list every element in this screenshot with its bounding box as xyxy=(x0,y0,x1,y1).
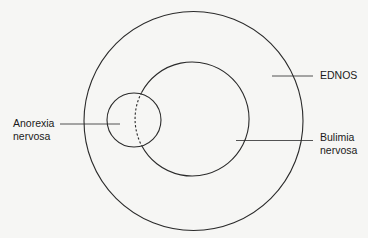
bulimia-label-line2: nervosa xyxy=(320,144,357,157)
bulimia-nervosa-circle xyxy=(142,62,249,176)
anorexia-nervosa-label: Anorexia nervosa xyxy=(13,117,54,143)
ednos-circle xyxy=(84,12,303,231)
bulimia-anorexia-overlap-dashed-arc xyxy=(135,93,142,146)
bulimia-nervosa-circle-outline xyxy=(139,62,253,176)
bulimia-nervosa-label: Bulimia nervosa xyxy=(320,131,357,157)
anorexia-label-line1: Anorexia xyxy=(13,117,54,130)
ednos-label: EDNOS xyxy=(320,69,357,82)
eating-disorders-venn-diagram xyxy=(0,0,368,238)
bulimia-label-line1: Bulimia xyxy=(320,131,357,144)
anorexia-nervosa-circle xyxy=(107,93,161,147)
anorexia-label-line2: nervosa xyxy=(13,130,54,143)
